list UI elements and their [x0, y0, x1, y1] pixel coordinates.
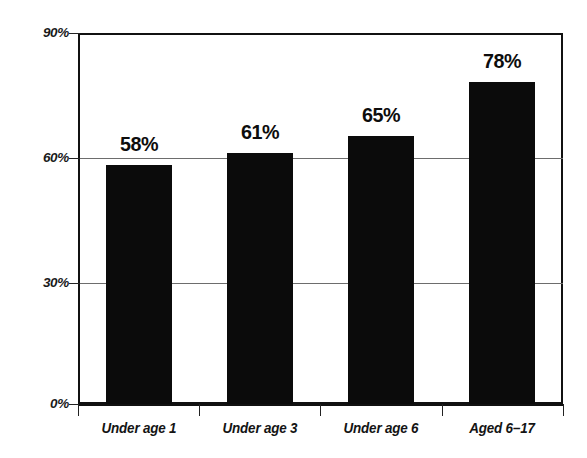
y-axis-label-30: 30%	[21, 276, 69, 290]
bar-under-age-1	[106, 165, 172, 404]
y-axis-label-0: 0%	[21, 397, 69, 411]
bar-under-age-6	[348, 136, 414, 404]
bar-value-label-2: 65%	[339, 104, 424, 125]
bar-value-label-3: 78%	[460, 50, 545, 71]
y-axis-label-90: 90%	[21, 26, 69, 40]
y-tick-90	[69, 33, 80, 34]
x-axis-category-label-0: Under age 1	[80, 421, 197, 436]
x-tick-2	[320, 404, 321, 416]
y-tick-30	[69, 283, 80, 284]
bar-chart: 90% 60% 30% 0% 58% 61% 65% 78% Under age…	[0, 0, 587, 458]
y-axis-label-60: 60%	[21, 151, 69, 165]
x-axis-category-label-1: Under age 3	[201, 421, 318, 436]
x-tick-3	[442, 404, 443, 416]
x-axis-category-label-3: Aged 6–17	[444, 421, 561, 436]
bar-value-label-0: 58%	[96, 133, 181, 154]
y-tick-60	[69, 158, 80, 159]
x-axis-category-label-2: Under age 6	[323, 421, 440, 436]
bar-value-label-1: 61%	[218, 121, 303, 142]
bar-under-age-3	[227, 153, 293, 404]
x-tick-4	[563, 404, 564, 416]
bar-aged-6-17	[469, 82, 535, 404]
x-tick-0	[78, 404, 79, 416]
x-tick-1	[199, 404, 200, 416]
